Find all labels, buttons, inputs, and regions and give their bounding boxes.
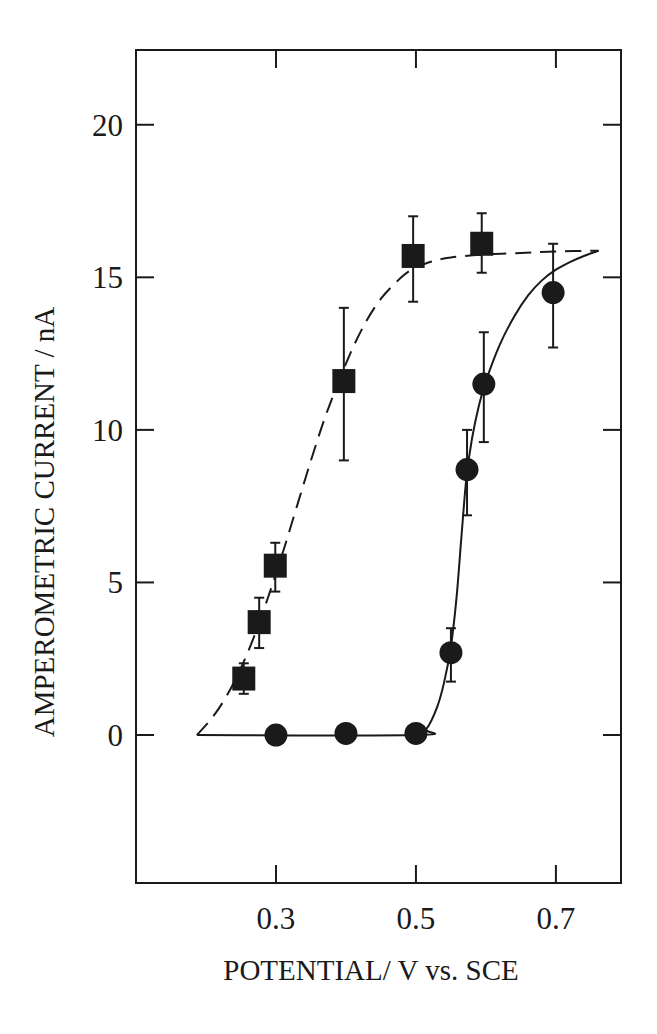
- y-tick-label: 10: [92, 413, 123, 448]
- circle-marker: [542, 281, 565, 304]
- square-marker: [470, 232, 493, 256]
- y-tick-label: 15: [92, 260, 123, 295]
- x-tick-label: 0.7: [537, 901, 576, 936]
- x-tick-label: 0.3: [257, 901, 296, 936]
- x-tick-label: 0.5: [397, 901, 436, 936]
- plot-frame: [136, 50, 621, 883]
- square-marker: [402, 244, 425, 268]
- y-tick-label: 5: [108, 565, 124, 600]
- circle-marker: [404, 722, 427, 745]
- chart: 0.30.50.705101520 POTENTIAL/ V vs. SCE A…: [0, 0, 657, 1034]
- plot-border: [136, 50, 621, 883]
- fit-curves: [197, 251, 599, 736]
- tick-labels: 0.30.50.705101520: [92, 108, 575, 936]
- error-bars: [239, 213, 558, 694]
- square-marker: [264, 554, 287, 578]
- squares-fit-curve: [197, 251, 599, 735]
- y-axis-title: AMPEROMETRIC CURRENT / nA: [28, 307, 60, 738]
- circle-marker: [456, 458, 479, 481]
- data-markers: [232, 232, 564, 747]
- circle-marker: [439, 641, 462, 664]
- circles-fit-curve: [197, 251, 599, 736]
- square-marker: [332, 369, 355, 393]
- axis-ticks: [136, 50, 621, 883]
- y-tick-label: 20: [92, 108, 123, 143]
- square-marker: [248, 610, 271, 634]
- circle-marker: [264, 724, 287, 747]
- square-marker: [232, 667, 255, 691]
- circle-marker: [472, 373, 495, 396]
- circle-marker: [334, 722, 357, 745]
- x-axis-title: POTENTIAL/ V vs. SCE: [223, 954, 518, 986]
- y-tick-label: 0: [108, 718, 124, 753]
